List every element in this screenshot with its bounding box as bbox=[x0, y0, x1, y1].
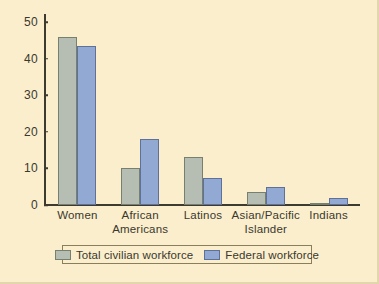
x-axis-category-label-line: Islander bbox=[211, 223, 321, 237]
y-axis-tick-label: 30 bbox=[8, 88, 38, 102]
y-axis-tick-mark bbox=[44, 204, 48, 206]
bar-federal bbox=[266, 187, 285, 205]
y-axis-tick-label: 40 bbox=[8, 52, 38, 66]
legend-label: Federal workforce bbox=[225, 249, 319, 261]
bar-group bbox=[310, 0, 348, 205]
legend-swatch-icon bbox=[55, 250, 71, 260]
legend-swatch-icon bbox=[204, 250, 220, 260]
bar-chart-figure: 01020304050 WomenAfricanAmericansLatinos… bbox=[0, 0, 379, 284]
bar-group bbox=[184, 0, 222, 205]
legend-entry[interactable]: Federal workforce bbox=[204, 249, 319, 261]
y-axis-tick-mark bbox=[44, 58, 48, 60]
x-axis-category-label-line: Indians bbox=[274, 209, 379, 223]
bar-total-civilian bbox=[184, 157, 203, 205]
bar-group bbox=[58, 0, 96, 205]
bar-group bbox=[247, 0, 285, 205]
bar-total-civilian bbox=[310, 203, 329, 205]
bar-federal bbox=[329, 198, 348, 205]
chart-legend: Total civilian workforceFederal workforc… bbox=[62, 245, 312, 264]
y-axis: 01020304050 bbox=[0, 0, 38, 284]
y-axis-tick-mark bbox=[44, 21, 48, 23]
y-axis-tick-label: 50 bbox=[8, 15, 38, 29]
y-axis-tick-mark bbox=[44, 168, 48, 170]
y-axis-tick-mark bbox=[44, 131, 48, 133]
y-axis-tick-label: 10 bbox=[8, 161, 38, 175]
y-axis-tick-mark bbox=[44, 94, 48, 96]
bar-total-civilian bbox=[121, 168, 140, 205]
legend-entry[interactable]: Total civilian workforce bbox=[55, 249, 193, 261]
x-axis-category-label-line: Americans bbox=[85, 223, 195, 237]
bar-federal bbox=[140, 139, 159, 205]
y-axis-tick-label: 20 bbox=[8, 125, 38, 139]
bar-federal bbox=[77, 46, 96, 205]
bar-total-civilian bbox=[58, 37, 77, 205]
bar-federal bbox=[203, 178, 222, 205]
x-axis-category-label: Indians bbox=[274, 209, 379, 223]
bar-total-civilian bbox=[247, 192, 266, 205]
bar-group bbox=[121, 0, 159, 205]
legend-label: Total civilian workforce bbox=[76, 249, 193, 261]
